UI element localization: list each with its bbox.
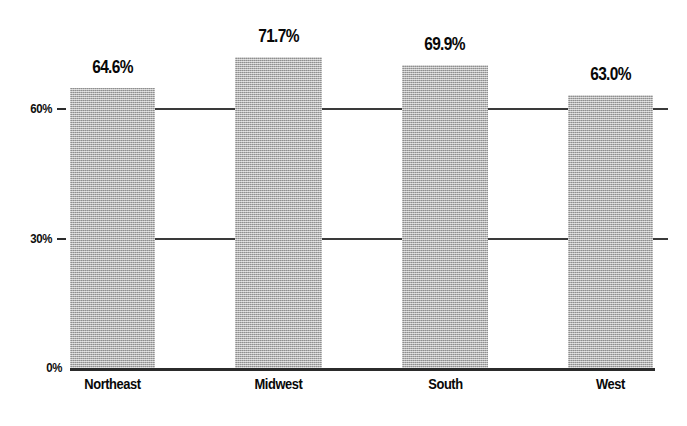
category-label-south: South: [398, 375, 493, 392]
bar-west: [568, 95, 653, 368]
category-label-west: West: [563, 375, 658, 392]
ytick-dash-30: [57, 238, 66, 240]
bar-northeast: [70, 88, 155, 368]
plot-area: 60% 30% 0% 64.6% 71.7% 69.9% 63.0% North…: [0, 0, 687, 426]
value-label-northeast: 64.6%: [69, 57, 156, 78]
value-label-west: 63.0%: [567, 64, 654, 85]
bar-midwest: [235, 57, 322, 368]
bar-south: [402, 65, 488, 368]
ytick-label-0: 0%: [7, 360, 62, 375]
bar-chart: 60% 30% 0% 64.6% 71.7% 69.9% 63.0% North…: [0, 0, 687, 426]
ytick-label-60: 60%: [6, 101, 52, 116]
value-label-south: 69.9%: [401, 34, 488, 55]
axis-baseline: [70, 368, 655, 371]
category-label-northeast: Northeast: [65, 375, 160, 392]
ytick-label-30: 30%: [6, 231, 52, 246]
category-label-midwest: Midwest: [231, 375, 326, 392]
value-label-midwest: 71.7%: [235, 26, 322, 47]
ytick-dash-60: [57, 108, 66, 110]
